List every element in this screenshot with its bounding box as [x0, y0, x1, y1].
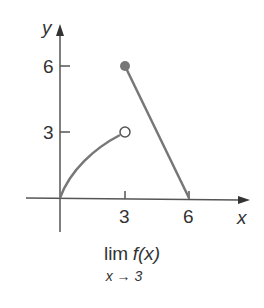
caption-func: f(x): [133, 243, 160, 264]
x-tick-label-3: 3: [119, 206, 130, 227]
caption-subscript: x → 3: [0, 268, 256, 284]
left-branch-curve: [60, 135, 120, 198]
x-axis-arrow: [238, 196, 250, 204]
x-axis: [26, 198, 240, 200]
y-tick-label-3: 3: [43, 122, 54, 143]
y-tick-label-6: 6: [43, 56, 54, 77]
right-branch-line: [125, 66, 189, 198]
x-tick-label-6: 6: [183, 206, 194, 227]
x-axis-label: x: [236, 207, 248, 228]
caption: lim f(x): [0, 243, 264, 265]
open-circle-marker: [120, 127, 130, 137]
caption-lim: lim: [104, 243, 128, 264]
y-axis-arrow: [56, 24, 64, 36]
y-axis-label: y: [40, 17, 53, 38]
filled-dot-marker: [120, 61, 130, 71]
